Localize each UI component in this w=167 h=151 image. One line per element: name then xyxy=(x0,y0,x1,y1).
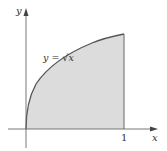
curve-label: y = √x xyxy=(42,52,74,63)
x-axis-arrow-icon xyxy=(150,127,158,132)
x-tick-label-1: 1 xyxy=(121,132,127,143)
shaded-region xyxy=(26,34,124,129)
area-under-sqrt-diagram: y x 1 y = √x xyxy=(0,0,167,151)
y-axis-arrow-icon xyxy=(24,8,29,16)
x-axis-label: x xyxy=(152,132,158,143)
y-axis-label: y xyxy=(15,5,22,16)
